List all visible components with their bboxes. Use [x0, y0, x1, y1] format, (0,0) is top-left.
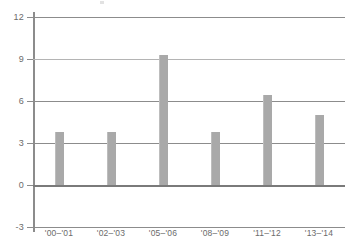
gridline-0 [33, 185, 345, 187]
gridline-6 [33, 101, 345, 102]
x-tick-label-3: '08–'09 [185, 228, 245, 238]
bar-3 [211, 132, 220, 185]
x-tick-label-0: '00–'01 [29, 228, 89, 238]
page-speck [100, 1, 104, 4]
gridline-9 [33, 59, 345, 60]
gridline-3 [33, 143, 345, 144]
y-tick-label-3: 3 [0, 139, 24, 148]
bar-2 [159, 55, 168, 185]
plot-area [33, 17, 345, 227]
x-tick-label-4: '11–'12 [237, 228, 297, 238]
y-tick-label-0: 0 [0, 181, 24, 190]
bar-4 [263, 95, 272, 185]
x-tick-label-1: '02–'03 [81, 228, 141, 238]
x-tick-label-2: '05–'06 [133, 228, 193, 238]
bar-5 [315, 115, 324, 185]
gridline-12 [33, 17, 345, 18]
y-tick-label-6: 6 [0, 97, 24, 106]
y-tick-label--3: -3 [0, 223, 24, 232]
bar-0 [55, 132, 64, 185]
x-tick-label-5: '13–'14 [289, 228, 349, 238]
y-tick-label-12: 12 [0, 13, 24, 22]
bar-1 [107, 132, 116, 185]
bar-chart: 129630-3 '00–'01'02–'03'05–'06'08–'09'11… [0, 0, 352, 250]
y-tick-label-9: 9 [0, 55, 24, 64]
